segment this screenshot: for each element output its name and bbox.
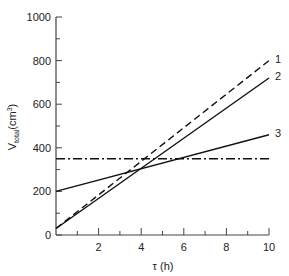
y-axis-label: Vtotal(cm3) [6, 104, 20, 150]
x-tick-label: 6 [181, 241, 187, 253]
x-axis-label: τ (h) [153, 260, 174, 272]
x-tick-label: 4 [138, 241, 144, 253]
x-tick-label: 10 [263, 241, 275, 253]
series-label-2: 2 [275, 70, 281, 82]
series-line-1 [56, 61, 269, 229]
series-line-2 [56, 78, 269, 228]
x-tick-label: 2 [96, 241, 102, 253]
labels-group: 123 [275, 53, 281, 139]
series-label-3: 3 [275, 127, 281, 139]
y-tick-label: 400 [33, 142, 51, 154]
chart-container: 02004006008001000246810 123 τ (h) Vtotal… [0, 0, 289, 276]
series-label-1: 1 [275, 53, 281, 65]
y-tick-label: 0 [45, 229, 51, 241]
axes: 02004006008001000246810 [27, 11, 276, 253]
line-chart: 02004006008001000246810 123 τ (h) Vtotal… [0, 0, 289, 276]
y-tick-label: 800 [33, 55, 51, 67]
y-tick-label: 600 [33, 98, 51, 110]
y-tick-label: 200 [33, 185, 51, 197]
series-group [56, 61, 269, 229]
series-line-3 [56, 135, 269, 192]
x-tick-label: 8 [223, 241, 229, 253]
y-tick-label: 1000 [27, 11, 51, 23]
